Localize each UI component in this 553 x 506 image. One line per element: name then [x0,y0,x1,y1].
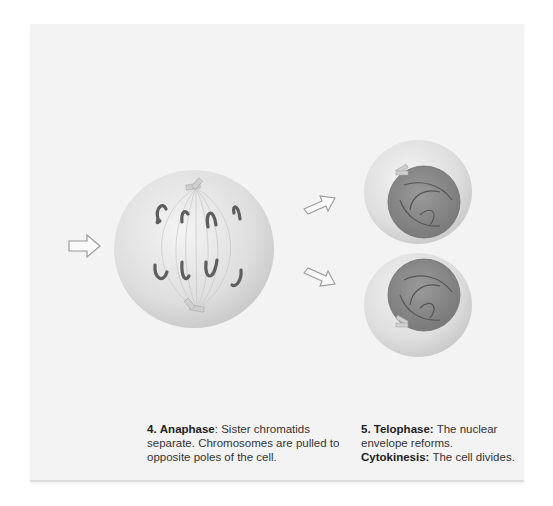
telophase-cells [364,140,472,357]
anaphase-number: 4. [147,423,157,435]
arrow-to-bottom-daughter-icon [304,268,335,286]
anaphase-colon: : [215,423,218,435]
telophase-title: Telophase: [374,423,434,435]
anaphase-cell [114,170,274,328]
arrow-to-top-daughter-icon [304,196,335,214]
top-nucleus [388,166,460,238]
cytokinesis-description: The cell divides. [432,451,514,463]
cytokinesis-title: Cytokinesis: [361,451,429,463]
telophase-caption: 5. Telophase: The nuclear envelope refor… [361,422,531,464]
incoming-arrow-icon [69,235,100,257]
anaphase-title: Anaphase [160,423,215,435]
telophase-number: 5. [361,423,371,435]
anaphase-caption: 4. Anaphase: Sister chromatids separate.… [147,422,347,464]
